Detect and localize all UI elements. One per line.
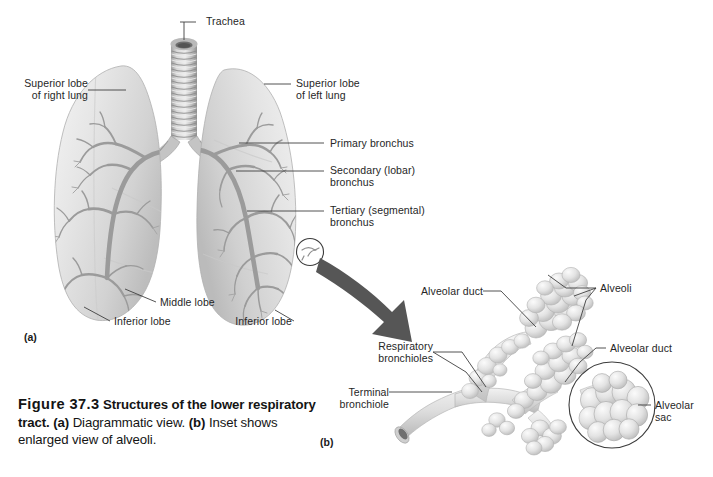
label-superior-lobe-left-line2: of left lung bbox=[296, 89, 346, 102]
figure-caption: Figure 37.3 Structures of the lower resp… bbox=[18, 396, 330, 449]
caption-part-a-text: Diagrammatic view. bbox=[73, 415, 186, 430]
label-respiratory-bronchioles-line2: bronchioles bbox=[363, 352, 433, 365]
left-lung-illustration bbox=[197, 69, 324, 325]
label-secondary-bronchus-line2: bronchus bbox=[330, 176, 374, 189]
alveolar-cluster-upper bbox=[520, 267, 594, 338]
label-alveolar-duct-upper: Alveolar duct bbox=[413, 285, 483, 298]
figure-container: Trachea Superior lobe of right lung Supe… bbox=[0, 0, 713, 477]
label-middle-lobe: Middle lobe bbox=[160, 296, 215, 309]
label-superior-lobe-right-line2: of right lung bbox=[0, 89, 88, 102]
label-primary-bronchus: Primary bronchus bbox=[330, 137, 414, 150]
label-superior-lobe-left-line1: Superior lobe bbox=[296, 77, 360, 90]
label-inferior-lobe-left: Inferior lobe bbox=[216, 315, 292, 328]
label-tertiary-bronchus-line2: bronchus bbox=[330, 216, 374, 229]
label-trachea: Trachea bbox=[206, 15, 245, 28]
enlargement-arrow bbox=[316, 258, 412, 342]
label-alveolar-sac-line1: Alveolar bbox=[655, 399, 694, 412]
caption-part-a-tag: (a) bbox=[53, 415, 69, 430]
figure-number: Figure 37.3 bbox=[18, 396, 99, 412]
label-superior-lobe-right-line1: Superior lobe bbox=[0, 77, 88, 90]
caption-part-b-tag: (b) bbox=[189, 415, 206, 430]
label-inferior-lobe-right: Inferior lobe bbox=[114, 315, 171, 328]
label-alveoli: Alveoli bbox=[600, 282, 632, 295]
label-respiratory-bronchioles-line1: Respiratory bbox=[363, 340, 433, 353]
alveolar-cluster-lower-small bbox=[521, 410, 566, 455]
label-secondary-bronchus-line1: Secondary (lobar) bbox=[330, 164, 415, 177]
label-tertiary-bronchus-line1: Tertiary (segmental) bbox=[330, 204, 425, 217]
alveolar-sac-cluster bbox=[579, 371, 649, 442]
panel-tag-a: (a) bbox=[24, 331, 37, 343]
label-alveolar-sac-line2: sac bbox=[655, 411, 672, 424]
label-alveolar-duct-right: Alveolar duct bbox=[610, 342, 672, 355]
right-lung-illustration bbox=[50, 66, 162, 322]
